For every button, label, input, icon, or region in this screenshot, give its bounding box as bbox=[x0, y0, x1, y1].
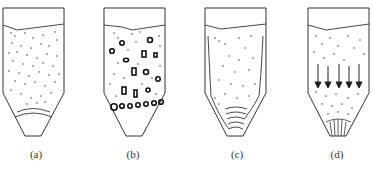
flow-arrows bbox=[315, 64, 362, 88]
particles bbox=[8, 31, 60, 105]
silo-diagram bbox=[0, 0, 373, 174]
silo-panel-a bbox=[3, 8, 64, 136]
silo-panel-d bbox=[308, 8, 369, 136]
silo-panel-c bbox=[205, 8, 266, 136]
agglomerates bbox=[110, 38, 164, 111]
panel-label-d: (d) bbox=[331, 148, 344, 160]
panel-label-b: (b) bbox=[127, 148, 140, 160]
particles bbox=[214, 35, 256, 105]
panel-label-c: (c) bbox=[231, 148, 243, 160]
arch-layers bbox=[225, 107, 247, 129]
silo-panel-b bbox=[104, 8, 165, 136]
panel-label-a: (a) bbox=[30, 148, 42, 160]
